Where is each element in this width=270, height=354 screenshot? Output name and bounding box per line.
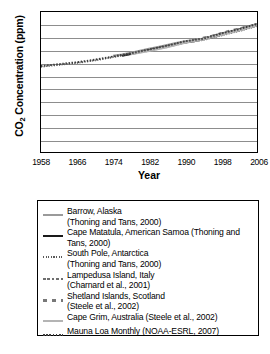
x-tick-label: 1966 [59,157,95,167]
legend-item-label: Barrow, Alaska(Thoning and Tans, 2000) [67,206,254,227]
legend-item-label: South Pole, Antarctica(Thoning and Tans,… [67,248,254,269]
legend-item-label: Cape Matatula, American Samoa (Thoning a… [67,227,254,248]
co2-concentration-chart: CO2 Concentration (ppm) 4003803603403203… [0,0,270,196]
y-axis-title-suffix: Concentration (ppm) [13,15,25,117]
x-tick-label: 1958 [23,157,59,167]
plot-area: 400380360340320300280260240220200180 195… [40,11,258,153]
x-tick-label: 1982 [132,157,168,167]
x-tick-label: 1974 [96,157,132,167]
y-axis-title-prefix: CO [13,121,25,136]
data-series-layer [41,12,257,152]
legend-item-label: Mauna Loa Monthly (NOAA-ESRL, 2007) [67,326,254,337]
legend-swatch-icon [43,273,63,284]
legend-item: Barrow, Alaska(Thoning and Tans, 2000) [38,206,258,227]
y-axis-title-subscript: 2 [18,117,27,121]
x-tick-label: 2006 [241,157,270,167]
legend-item-label: Lampedusa Island, Italy(Charnard et al.,… [67,270,254,291]
legend-swatch-icon [43,251,63,262]
legend-swatch-icon [43,294,63,305]
legend-item-label: Shetland Islands, Scotland(Steele et al.… [67,291,254,312]
legend-swatch-icon [43,315,63,326]
legend-item: Cape Matatula, American Samoa (Thoning a… [38,227,258,248]
legend-item: South Pole, Antarctica(Thoning and Tans,… [38,248,258,269]
legend-item: Shetland Islands, Scotland(Steele et al.… [38,291,258,312]
legend-swatch-icon [43,329,63,340]
legend-swatch-icon [43,230,63,241]
series-line [41,24,257,66]
legend-item: Cape Grim, Australia (Steele et al., 200… [38,312,258,326]
legend-swatch-icon [43,209,63,220]
x-axis-title: Year [40,169,258,181]
y-axis-title: CO2 Concentration (ppm) [13,6,27,146]
legend-item: Mauna Loa Monthly (NOAA-ESRL, 2007) [38,326,258,340]
legend-item-label: Cape Grim, Australia (Steele et al., 200… [67,312,254,323]
legend-item: Lampedusa Island, Italy(Charnard et al.,… [38,270,258,291]
x-tick-label: 1990 [168,157,204,167]
x-tick-label: 1998 [205,157,241,167]
legend: Barrow, Alaska(Thoning and Tans, 2000)Ca… [37,200,259,336]
